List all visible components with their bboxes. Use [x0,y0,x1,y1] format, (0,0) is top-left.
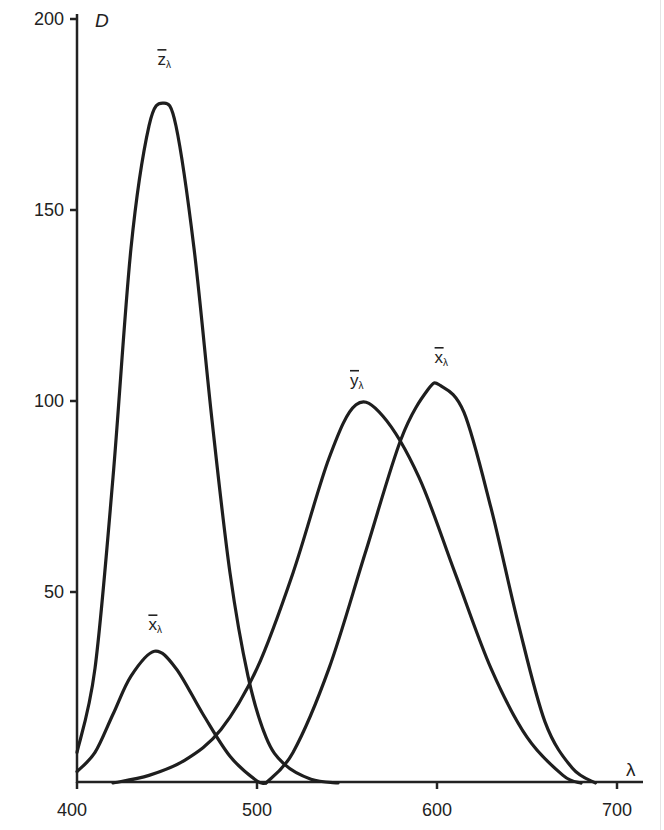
curve-labels: zλyλxλxλ [148,50,448,635]
y-tick-label: 100 [34,391,64,411]
curve-label: zλ [157,50,171,70]
curves [77,103,595,784]
curve-label: xλ [435,348,449,368]
curve-z-bar-0 [77,103,338,783]
y-axis-label: D [95,10,109,31]
x-tick-label: 600 [422,800,452,820]
chart: 50100150200 D 400500600700 λ zλyλxλxλ [0,0,664,830]
x-axis-label: λ [626,759,636,780]
y-tick-label: 200 [34,9,64,29]
curve-x-bar-3 [77,651,266,784]
x-tick-label: 500 [242,800,272,820]
page-edge [660,0,661,830]
y-tick-label: 50 [44,582,64,602]
x-tick-label: 400 [57,800,87,820]
curve-x-bar-2 [266,383,595,783]
curve-label: yλ [350,371,364,391]
y-axis: 50100150200 D [34,9,109,783]
y-tick-label: 150 [34,200,64,220]
x-tick-label: 700 [602,800,632,820]
curve-label: xλ [148,615,162,635]
